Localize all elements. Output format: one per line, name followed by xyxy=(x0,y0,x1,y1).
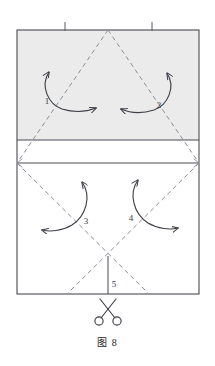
fold-label-3: 3 xyxy=(84,216,89,226)
scissors-handle-right xyxy=(113,317,121,325)
figure-caption: 图 8 xyxy=(0,334,215,349)
origami-figure: 1 2 3 4 5 图 8 xyxy=(0,0,215,366)
middle-strip xyxy=(17,140,199,163)
scissors-handle-left xyxy=(95,317,103,325)
fold-label-5: 5 xyxy=(112,279,117,289)
scissors-blade-left xyxy=(100,299,115,318)
fold-label-4: 4 xyxy=(129,213,134,223)
fold-label-2: 2 xyxy=(157,100,162,110)
fold-label-1: 1 xyxy=(45,96,50,106)
origami-diagram: 1 2 3 4 5 xyxy=(0,0,215,366)
scissors-icon xyxy=(95,299,121,325)
scissors-blade-right xyxy=(101,299,116,318)
